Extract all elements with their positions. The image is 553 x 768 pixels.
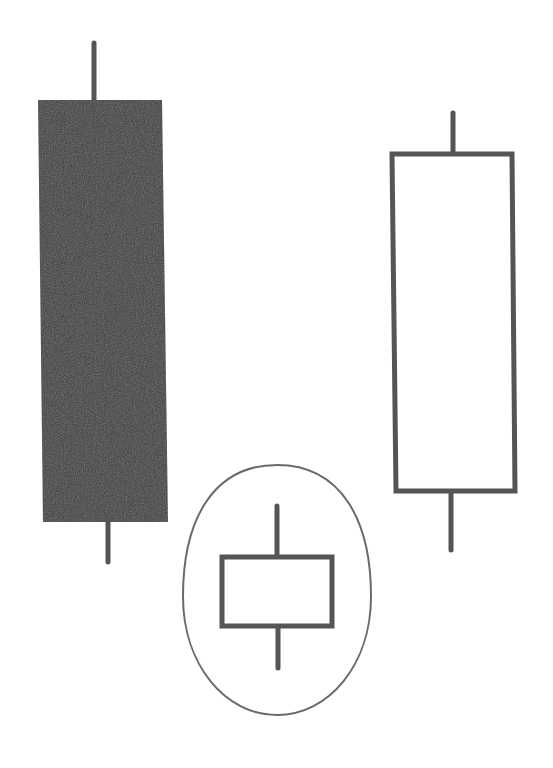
bearish-candle xyxy=(38,43,168,562)
bearish-body xyxy=(38,100,168,522)
small-body xyxy=(222,557,332,626)
bullish-body xyxy=(392,154,515,491)
candlestick-pattern-diagram xyxy=(0,0,553,768)
bullish-candle xyxy=(392,113,515,550)
